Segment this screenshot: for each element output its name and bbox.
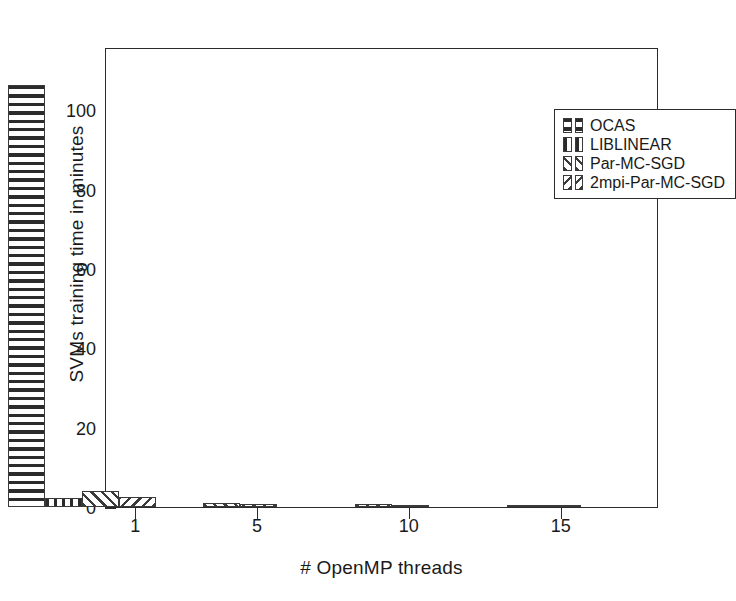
legend-swatch <box>563 175 572 190</box>
legend-item: Par-MC-SGD <box>563 154 725 173</box>
y-tick-label: 20 <box>36 420 96 438</box>
y-tick-label: 80 <box>36 182 96 200</box>
bar <box>355 504 392 507</box>
legend-swatch <box>575 137 583 152</box>
x-tick-label: 5 <box>227 516 287 537</box>
legend-swatch-group <box>563 156 583 171</box>
legend: OCASLIBLINEARPar-MC-SGD2mpi-Par-MC-SGD <box>554 109 736 199</box>
legend-swatch <box>575 175 583 190</box>
bar <box>119 497 156 507</box>
legend-swatch-group <box>563 137 583 152</box>
plot-area: OCASLIBLINEARPar-MC-SGD2mpi-Par-MC-SGD <box>105 48 658 508</box>
y-tick-label: 60 <box>36 261 96 279</box>
x-tick-label: 10 <box>379 516 439 537</box>
bar <box>392 505 429 508</box>
bar <box>8 85 45 507</box>
legend-item: 2mpi-Par-MC-SGD <box>563 173 725 192</box>
legend-swatch <box>575 156 583 171</box>
bar <box>544 505 581 508</box>
bar <box>203 503 240 507</box>
y-tick-label: 40 <box>36 340 96 358</box>
legend-swatch <box>563 118 572 133</box>
legend-swatch <box>563 137 572 152</box>
x-tick-label: 15 <box>531 516 591 537</box>
legend-swatch <box>575 118 583 133</box>
x-axis-title: # OpenMP threads <box>105 557 658 579</box>
y-tick-label: 100 <box>36 102 96 120</box>
legend-swatch <box>563 156 572 171</box>
bar <box>507 505 544 508</box>
y-tick-mark <box>105 508 116 509</box>
legend-swatch-group <box>563 175 583 190</box>
legend-label: Par-MC-SGD <box>590 156 685 172</box>
x-tick-label: 1 <box>105 516 165 537</box>
bar <box>82 491 119 507</box>
legend-item: LIBLINEAR <box>563 135 725 154</box>
bar <box>240 504 277 507</box>
legend-item: OCAS <box>563 116 725 135</box>
legend-swatch-group <box>563 118 583 133</box>
legend-label: OCAS <box>590 118 635 134</box>
legend-label: 2mpi-Par-MC-SGD <box>590 175 725 191</box>
legend-label: LIBLINEAR <box>590 137 672 153</box>
bar <box>45 498 82 507</box>
